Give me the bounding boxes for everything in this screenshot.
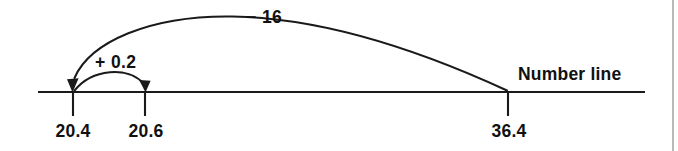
- arrow-head-minus-16: [67, 78, 79, 92]
- tick-label-20-6: 20.6: [129, 121, 164, 141]
- number-line-diagram: 20.4 20.6 36.4 + 0.2 − 16 Number line: [0, 0, 678, 151]
- number-line-figure: 20.4 20.6 36.4 + 0.2 − 16 Number line: [0, 0, 678, 151]
- arrow-head-plus-0-2: [139, 80, 150, 93]
- page-right-border: [672, 0, 674, 151]
- jump-arc-plus-0-2: [75, 72, 145, 90]
- jump-label-minus-16: − 16: [246, 7, 282, 27]
- tick-label-20-4: 20.4: [56, 121, 91, 141]
- number-line-name-label: Number line: [518, 64, 621, 84]
- tick-label-36-4: 36.4: [492, 121, 527, 141]
- jump-label-plus-0-2: + 0.2: [95, 52, 136, 72]
